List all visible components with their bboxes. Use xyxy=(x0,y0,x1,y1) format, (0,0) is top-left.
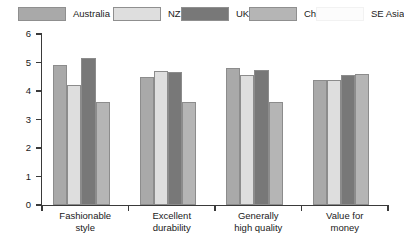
bar-china-1 xyxy=(96,102,110,205)
legend-item-label: NZ xyxy=(168,9,181,19)
legend-item-label: SE Asia xyxy=(371,9,404,19)
bar-china-3 xyxy=(269,102,283,205)
bar-china-4 xyxy=(355,74,369,205)
x-axis-label-line: style xyxy=(35,222,135,234)
bar-uk-1 xyxy=(81,58,95,205)
legend-swatch-icon xyxy=(18,7,66,21)
legend-swatch-icon xyxy=(113,7,161,21)
legend-item-uk[interactable]: UK xyxy=(181,6,249,21)
x-axis-label-line: Excellent xyxy=(122,210,222,222)
legend-item-nz[interactable]: NZ xyxy=(113,6,181,21)
y-tick-label: 6 xyxy=(0,29,31,39)
legend-swatch-icon xyxy=(249,7,297,21)
chart-legend: AustraliaNZUKChinaSE Asia xyxy=(0,0,397,26)
bar-nz-4 xyxy=(327,80,341,205)
legend-swatch-icon xyxy=(316,7,364,21)
x-axis-label-group-4: Value formoney xyxy=(295,210,395,233)
legend-item-se-asia[interactable]: SE Asia xyxy=(316,6,404,21)
legend-swatch-icon xyxy=(181,7,229,21)
y-tick-label: 5 xyxy=(0,58,31,68)
bar-australia-2 xyxy=(140,77,154,205)
bar-uk-4 xyxy=(341,75,355,205)
plot-area xyxy=(42,34,388,205)
x-axis-label-line: Value for xyxy=(295,210,395,222)
x-axis-label-line: high quality xyxy=(208,222,308,234)
bar-australia-3 xyxy=(226,68,240,205)
x-axis-label-line: Generally xyxy=(208,210,308,222)
x-axis-label-line: durability xyxy=(122,222,222,234)
bar-nz-1 xyxy=(67,85,81,205)
bar-australia-4 xyxy=(313,80,327,205)
y-tick-label: 4 xyxy=(0,86,31,96)
bar-china-2 xyxy=(182,102,196,205)
y-tick-label: 3 xyxy=(0,115,31,125)
legend-item-label: UK xyxy=(236,9,249,19)
bar-australia-1 xyxy=(53,65,67,205)
legend-item-australia[interactable]: Australia xyxy=(18,6,110,21)
x-axis-label-line: money xyxy=(295,222,395,234)
x-axis-label-group-3: Generallyhigh quality xyxy=(208,210,308,233)
x-axis-label-line: Fashionable xyxy=(35,210,135,222)
x-axis-label-group-1: Fashionablestyle xyxy=(35,210,135,233)
y-tick-label: 1 xyxy=(0,172,31,182)
bar-uk-3 xyxy=(254,70,268,205)
y-tick-label: 2 xyxy=(0,143,31,153)
y-tick-label: 0 xyxy=(0,200,31,210)
bar-uk-2 xyxy=(168,72,182,205)
legend-item-label: Australia xyxy=(73,9,110,19)
bar-nz-3 xyxy=(240,75,254,205)
bar-nz-2 xyxy=(154,71,168,205)
x-axis-label-group-2: Excellentdurability xyxy=(122,210,222,233)
